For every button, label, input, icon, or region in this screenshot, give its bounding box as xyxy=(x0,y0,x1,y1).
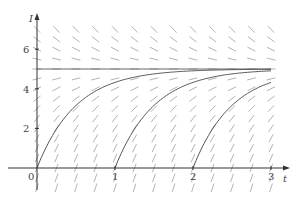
slope-segment xyxy=(250,154,254,162)
slope-segment xyxy=(73,115,79,122)
slope-segment xyxy=(93,115,99,122)
slope-segment xyxy=(111,58,120,60)
slope-segment xyxy=(267,47,275,51)
slope-segment xyxy=(269,125,274,133)
slope-segment xyxy=(55,154,59,162)
slope-segment xyxy=(53,96,60,101)
slope-segment xyxy=(191,134,195,142)
slope-segment xyxy=(94,154,98,162)
slope-segment xyxy=(267,37,274,42)
slope-segment xyxy=(191,125,196,133)
slope-segment xyxy=(169,58,178,60)
slope-segment xyxy=(250,144,254,152)
y-axis-arrow-icon xyxy=(35,13,40,20)
slope-segment xyxy=(72,47,80,51)
axes xyxy=(8,13,290,190)
slope-segment xyxy=(250,174,253,182)
slope-segment xyxy=(267,87,275,91)
slope-segment xyxy=(171,134,175,142)
y-tick-label: 4 xyxy=(23,84,29,95)
y-axis-label: I xyxy=(28,13,34,24)
slope-segment xyxy=(190,115,196,122)
slope-segment xyxy=(92,96,99,101)
slope-segment xyxy=(72,87,80,91)
slope-segment xyxy=(74,154,78,162)
slope-segment xyxy=(267,78,276,80)
x-tick-label: 3 xyxy=(268,171,274,182)
slope-segment xyxy=(229,26,235,32)
slope-segment xyxy=(113,134,117,142)
slope-segment xyxy=(55,184,58,193)
slope-segment xyxy=(270,184,273,193)
x-tick-label: 2 xyxy=(190,171,196,182)
slope-segment xyxy=(231,184,234,193)
slope-segment xyxy=(94,184,97,193)
slope-segment xyxy=(75,184,78,193)
slope-segment xyxy=(131,37,138,42)
slope-segment xyxy=(72,78,81,80)
slope-segment xyxy=(54,115,60,122)
slope-segment xyxy=(152,134,156,142)
slope-segment xyxy=(151,115,157,122)
slope-segment xyxy=(72,37,79,42)
slope-segment xyxy=(73,105,79,111)
slope-segment xyxy=(131,105,137,111)
slope-segment xyxy=(54,134,58,142)
slope-segment xyxy=(230,144,234,152)
slope-segment xyxy=(74,134,78,142)
slope-segment xyxy=(152,144,156,152)
slope-segment xyxy=(209,26,215,32)
x-axis-arrow-icon xyxy=(283,166,290,171)
slope-segment xyxy=(208,58,217,60)
slope-segment xyxy=(72,96,79,101)
slope-segment xyxy=(74,144,78,152)
slope-segment xyxy=(133,174,136,182)
slope-segment xyxy=(152,174,155,182)
slope-segment xyxy=(52,47,60,51)
slope-segment xyxy=(74,125,79,133)
slope-segment xyxy=(248,96,255,101)
slope-segment xyxy=(151,105,157,111)
slope-segment xyxy=(210,115,216,122)
slope-segment xyxy=(228,96,235,101)
slope-segment xyxy=(247,47,255,51)
slope-segment xyxy=(93,134,97,142)
x-tick-label: 1 xyxy=(112,171,118,182)
x-axis-label: t xyxy=(283,173,288,184)
solution-curve xyxy=(115,71,271,168)
slope-segment xyxy=(73,26,79,32)
slope-segment xyxy=(133,184,136,193)
slope-segment xyxy=(170,26,176,32)
slope-segment xyxy=(172,144,176,152)
slope-segment xyxy=(247,87,255,91)
slope-segment xyxy=(112,115,118,122)
y-tick-label: 6 xyxy=(23,44,29,55)
slope-segment xyxy=(92,26,98,32)
slope-segment xyxy=(189,58,198,60)
slope-segment xyxy=(267,58,276,60)
slope-segment xyxy=(92,37,99,42)
slope-segment xyxy=(150,78,159,80)
slope-segment xyxy=(91,47,99,51)
slope-segment xyxy=(92,105,98,111)
slope-segment xyxy=(53,37,60,42)
slope-segment xyxy=(250,184,253,193)
slope-segment xyxy=(171,125,176,133)
slope-segment xyxy=(211,174,214,182)
slope-segment xyxy=(249,115,255,122)
slope-segment xyxy=(209,96,216,101)
slope-segment xyxy=(132,115,138,122)
slope-segment xyxy=(189,78,198,80)
slope-segment xyxy=(171,115,177,122)
slope-segment xyxy=(130,47,138,51)
slope-segment xyxy=(268,105,274,111)
slope-segment xyxy=(189,96,196,101)
slope-segment xyxy=(191,154,195,162)
slope-segment xyxy=(111,87,119,91)
slope-segment xyxy=(111,78,120,80)
slope-field-chart: 0123246tI xyxy=(0,0,299,199)
slope-segment xyxy=(55,174,58,182)
slope-segment xyxy=(189,37,196,42)
slope-segment xyxy=(247,78,256,80)
slope-segment xyxy=(169,78,178,80)
